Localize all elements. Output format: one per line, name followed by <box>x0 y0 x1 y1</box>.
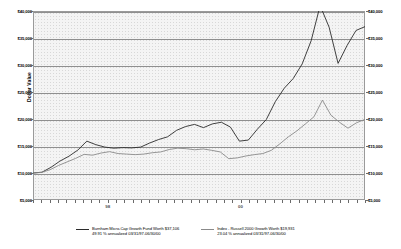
legend-entry: Burnham Micro-Cap Growth Fund Worth $37,… <box>76 226 179 236</box>
y-axis-tick-mark <box>366 146 369 147</box>
series-line <box>33 100 365 173</box>
x-axis-tick-mark <box>207 200 208 203</box>
y-axis-tick-label: $25,000 <box>368 90 382 95</box>
x-axis-tick-mark <box>274 200 275 203</box>
y-axis-tick-label: $10,000 <box>368 171 382 176</box>
x-axis-tick-mark <box>182 200 183 203</box>
x-axis-tick-mark <box>33 200 34 203</box>
y-axis-tick-mark <box>366 65 369 66</box>
legend-label-line2: 49.91 % annualized 03/31/97-06/30/00 <box>92 231 179 236</box>
x-axis-tick-mark <box>41 200 42 203</box>
x-axis-tick-mark <box>75 200 76 203</box>
x-axis-tick-mark <box>174 200 175 203</box>
x-axis-tick-mark <box>241 200 242 203</box>
x-axis-tick-mark <box>66 200 67 203</box>
x-axis-tick-mark <box>290 200 291 203</box>
x-axis-tick-mark <box>191 200 192 203</box>
legend-color-swatch <box>201 229 214 230</box>
x-axis-tick-mark <box>91 200 92 203</box>
x-axis-tick-mark <box>216 200 217 203</box>
legend-color-swatch <box>76 229 89 230</box>
y-axis-tick-label: $5,000 <box>368 198 380 203</box>
series-line <box>33 11 365 173</box>
x-axis-tick-label: 00 <box>238 204 243 209</box>
y-axis-tick-mark <box>366 119 369 120</box>
x-axis-tick-mark <box>58 200 59 203</box>
y-axis-tick-mark <box>366 173 369 174</box>
legend-label: Burnham Micro-Cap Growth Fund Worth $37,… <box>92 226 179 236</box>
x-axis-tick-mark <box>224 200 225 203</box>
y-axis-tick-mark <box>366 11 369 12</box>
x-axis-tick-mark <box>257 200 258 203</box>
legend-entry: Index - Russell 2000 Growth Worth $19,93… <box>201 226 295 236</box>
x-axis-tick-mark <box>83 200 84 203</box>
x-axis-tick-mark <box>324 200 325 203</box>
x-axis-tick-mark <box>133 200 134 203</box>
x-axis-tick-mark <box>348 200 349 203</box>
x-axis-tick-mark <box>50 200 51 203</box>
y-axis-tick-mark <box>366 38 369 39</box>
x-axis-tick-mark <box>141 200 142 203</box>
x-axis-tick-mark <box>315 200 316 203</box>
chart-legend: Burnham Micro-Cap Growth Fund Worth $37,… <box>76 226 295 236</box>
x-axis-tick-mark <box>249 200 250 203</box>
y-axis-tick-label: $40,000 <box>368 9 382 14</box>
x-axis-tick-mark <box>332 200 333 203</box>
x-axis-tick-mark <box>199 200 200 203</box>
series-lines <box>33 11 365 200</box>
x-axis-tick-mark <box>340 200 341 203</box>
x-axis-tick-mark <box>282 200 283 203</box>
legend-label-line2: 23.04 % annualized 03/31/97-06/30/00 <box>217 231 295 236</box>
x-axis-tick-mark <box>99 200 100 203</box>
x-axis-tick-mark <box>108 200 109 203</box>
x-axis-tick-mark <box>307 200 308 203</box>
y-axis-tick-label: $15,000 <box>368 144 382 149</box>
x-axis-tick-mark <box>265 200 266 203</box>
x-axis-tick-mark <box>158 200 159 203</box>
x-axis-tick-mark <box>149 200 150 203</box>
growth-comparison-chart: Dollar Value $40,000$35,000$30,000$25,00… <box>0 0 401 249</box>
y-axis-tick-label: $30,000 <box>368 63 382 68</box>
x-axis-tick-mark <box>299 200 300 203</box>
x-axis-tick-mark <box>166 200 167 203</box>
y-axis-tick-label: $20,000 <box>368 117 382 122</box>
x-axis-tick-mark <box>124 200 125 203</box>
x-axis-tick-mark <box>232 200 233 203</box>
x-axis-tick-label: 98 <box>105 204 110 209</box>
x-axis-tick-mark <box>116 200 117 203</box>
y-axis-tick-mark <box>366 200 369 201</box>
x-axis-tick-mark <box>365 200 366 203</box>
x-axis-tick-mark <box>357 200 358 203</box>
y-axis-tick-mark <box>366 92 369 93</box>
y-axis-tick-label: $35,000 <box>368 36 382 41</box>
legend-label: Index - Russell 2000 Growth Worth $19,93… <box>217 226 295 236</box>
